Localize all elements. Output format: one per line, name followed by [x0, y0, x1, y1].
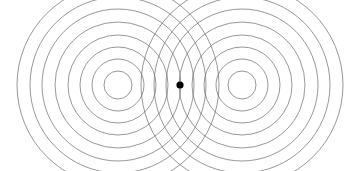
- wave-diagram-canvas: [0, 0, 360, 171]
- center-point-marker: [176, 81, 183, 88]
- wave-diagram-figure: [0, 0, 360, 171]
- center-point-marker-group: [176, 81, 183, 88]
